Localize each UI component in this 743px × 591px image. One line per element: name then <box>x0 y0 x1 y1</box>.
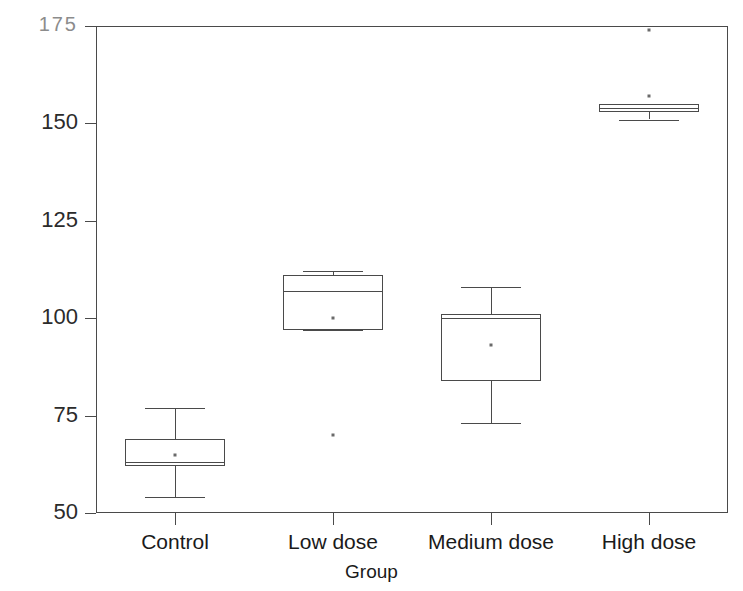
y-tick-mark <box>85 123 96 124</box>
x-tick-label-low-dose: Low dose <box>288 530 378 554</box>
mean-marker <box>490 344 493 347</box>
whisker-lower-stem <box>175 466 176 497</box>
x-tick-label-control: Control <box>141 530 209 554</box>
x-tick-label-medium-dose: Medium dose <box>428 530 554 554</box>
y-tick-mark <box>85 416 96 417</box>
y-tick-mark <box>85 221 96 222</box>
whisker-lower-cap <box>619 120 679 121</box>
boxplot-figure: Activated clotting times 175150125100755… <box>0 0 743 591</box>
whisker-upper-cap <box>461 287 521 288</box>
mean-marker <box>332 317 335 320</box>
whisker-lower-cap <box>461 423 521 424</box>
whisker-upper-cap <box>303 271 363 272</box>
whisker-upper-stem <box>491 287 492 314</box>
x-tick-mark-medium-dose <box>491 513 492 525</box>
whisker-upper-cap <box>145 408 205 409</box>
outlier-point <box>648 28 651 31</box>
y-tick-mark <box>85 26 96 27</box>
y-tick-label: 75 <box>54 402 78 428</box>
box-iqr <box>441 314 541 380</box>
y-tick-label: 175 <box>39 13 78 36</box>
whisker-lower-cap <box>145 497 205 498</box>
x-tick-mark-high-dose <box>649 513 650 525</box>
median-line <box>125 462 225 463</box>
box-iqr <box>283 275 383 330</box>
y-tick-mark <box>85 318 96 319</box>
whisker-upper-stem <box>175 408 176 439</box>
y-tick-label: 125 <box>41 207 78 233</box>
whisker-lower-cap <box>303 330 363 331</box>
whisker-lower-stem <box>649 112 650 120</box>
median-line <box>441 318 541 319</box>
y-tick-label: 50 <box>54 499 78 525</box>
mean-marker <box>174 453 177 456</box>
outlier-point <box>332 434 335 437</box>
y-tick-mark <box>85 513 96 514</box>
y-tick-label: 150 <box>41 109 78 135</box>
y-axis-title-wrap: Activated clotting times <box>0 0 36 530</box>
x-tick-label-high-dose: High dose <box>602 530 697 554</box>
cropped-title-sliver <box>130 0 550 7</box>
y-axis-title: Activated clotting times <box>2 0 36 34</box>
median-line <box>283 291 383 292</box>
x-tick-mark-control <box>175 513 176 525</box>
y-tick-label: 100 <box>41 304 78 330</box>
mean-marker <box>648 95 651 98</box>
whisker-lower-stem <box>491 381 492 424</box>
x-axis-title: Group <box>0 561 743 583</box>
median-line <box>599 108 699 109</box>
x-tick-mark-low-dose <box>333 513 334 525</box>
